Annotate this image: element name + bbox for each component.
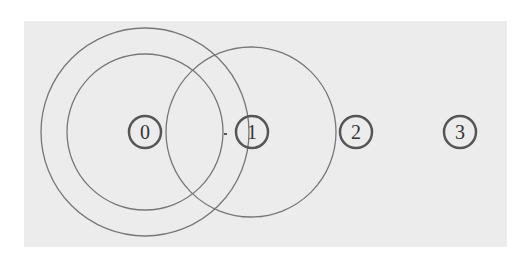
nodes-group: 0 1 2 3: [129, 116, 476, 148]
rings-group: [41, 28, 336, 236]
node-1: 1: [236, 116, 268, 148]
node-2: 2: [340, 116, 372, 148]
node-0-label: 0: [140, 121, 150, 143]
node-1-label: 1: [247, 121, 257, 143]
node-0: 0: [129, 116, 161, 148]
circle-diagram: 0 1 2 3: [0, 0, 525, 257]
node-3: 3: [444, 116, 476, 148]
node-3-label: 3: [455, 121, 465, 143]
node-2-label: 2: [351, 121, 361, 143]
